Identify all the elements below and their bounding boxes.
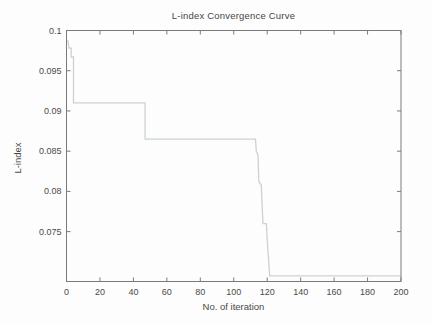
x-tick-label: 200 <box>393 287 408 297</box>
y-tick-label: 0.09 <box>44 106 62 116</box>
x-tick-label: 0 <box>64 287 69 297</box>
x-tick-label: 120 <box>260 287 275 297</box>
x-tick-label: 140 <box>293 287 308 297</box>
convergence-curve <box>68 40 401 276</box>
y-tick-label: 0.08 <box>44 186 62 196</box>
x-tick-label: 160 <box>327 287 342 297</box>
x-tick-label: 100 <box>226 287 241 297</box>
y-tick-label: 0.075 <box>39 227 62 237</box>
x-tick-label: 20 <box>95 287 105 297</box>
axes-box <box>67 31 402 282</box>
y-tick-label: 0.085 <box>39 146 62 156</box>
x-tick-label: 40 <box>128 287 138 297</box>
x-tick-label: 80 <box>195 287 205 297</box>
x-tick-label: 60 <box>162 287 172 297</box>
figure: L-index Convergence Curve L-index No. of… <box>0 0 432 324</box>
x-tick-label: 180 <box>360 287 375 297</box>
y-tick-label: 0.1 <box>49 26 62 36</box>
plot-svg: 0204060801001201401601802000.0750.080.08… <box>0 0 432 324</box>
y-tick-label: 0.095 <box>39 66 62 76</box>
